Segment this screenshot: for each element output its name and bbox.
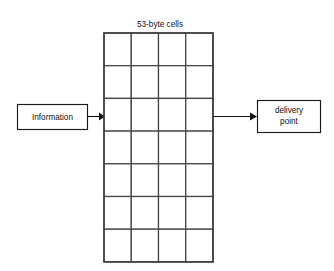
grid-cell[interactable]: [186, 33, 213, 66]
cell-grid: [104, 33, 213, 262]
grid-cell[interactable]: [131, 197, 158, 230]
information-box[interactable]: Information: [18, 105, 88, 130]
grid-cell[interactable]: [186, 98, 213, 131]
grid-cell[interactable]: [159, 229, 186, 262]
grid-cell[interactable]: [159, 66, 186, 99]
grid-cell[interactable]: [131, 164, 158, 197]
diagram-canvas: 53-byte cells Information: [0, 0, 334, 271]
grid-cell[interactable]: [159, 33, 186, 66]
grid-cell[interactable]: [159, 98, 186, 131]
grid-to-delivery-arrow-head: [250, 113, 257, 121]
delivery-point-label-line2: point: [280, 117, 298, 126]
grid-cell[interactable]: [186, 197, 213, 230]
grid-cell[interactable]: [104, 66, 131, 99]
grid-cell[interactable]: [186, 164, 213, 197]
grid-cell[interactable]: [186, 66, 213, 99]
grid-cell[interactable]: [159, 131, 186, 164]
delivery-point-box[interactable]: delivery point: [258, 101, 321, 133]
grid-cell[interactable]: [104, 33, 131, 66]
grid-cell[interactable]: [104, 197, 131, 230]
information-box-label: Information: [32, 113, 73, 122]
grid-cell[interactable]: [131, 98, 158, 131]
grid-cell[interactable]: [186, 229, 213, 262]
grid-cell[interactable]: [104, 229, 131, 262]
atm-cell-flow-diagram: 53-byte cells Information: [0, 0, 334, 271]
grid-cell[interactable]: [131, 229, 158, 262]
delivery-point-label-line1: delivery: [275, 106, 304, 115]
grid-cell[interactable]: [104, 98, 131, 131]
information-to-grid-arrow: [88, 113, 105, 121]
grid-to-delivery-arrow: [213, 113, 257, 121]
grid-cell[interactable]: [104, 131, 131, 164]
grid-title-label: 53-byte cells: [137, 20, 183, 29]
grid-cell[interactable]: [131, 131, 158, 164]
grid-cell[interactable]: [104, 164, 131, 197]
grid-cell[interactable]: [131, 33, 158, 66]
grid-cell[interactable]: [159, 164, 186, 197]
grid-cell[interactable]: [131, 66, 158, 99]
grid-cell[interactable]: [159, 197, 186, 230]
grid-cell[interactable]: [186, 131, 213, 164]
